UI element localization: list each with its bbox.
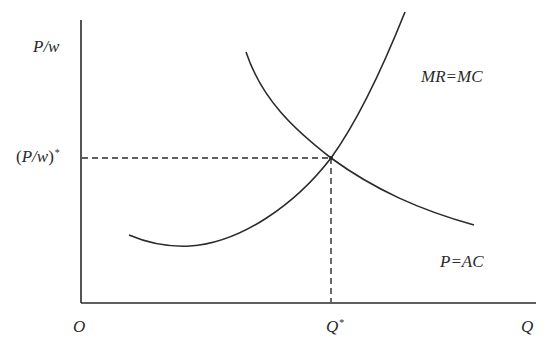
- origin-label: O: [73, 318, 85, 335]
- y-axis-label: P/w: [33, 38, 59, 55]
- equilibrium-price-base: P/w: [22, 147, 48, 166]
- close-paren: ): [48, 147, 54, 166]
- equilibrium-price-star: *: [55, 147, 60, 158]
- mr-mc-label: MR=MC: [421, 68, 483, 85]
- equilibrium-price-label: (P/w)*: [16, 148, 60, 165]
- equilibrium-quantity-base: Q: [326, 317, 338, 336]
- equilibrium-quantity-star: *: [339, 317, 344, 328]
- diagram-canvas: P/w (P/w)* MR=MC P=AC O Q* Q: [0, 0, 554, 360]
- equilibrium-point: [329, 156, 333, 160]
- diagram-svg: [0, 0, 554, 360]
- x-axis-label: Q: [521, 318, 533, 335]
- mr-mc-curve: [129, 12, 405, 246]
- equilibrium-quantity-label: Q*: [326, 318, 344, 335]
- p-ac-label: P=AC: [440, 253, 484, 270]
